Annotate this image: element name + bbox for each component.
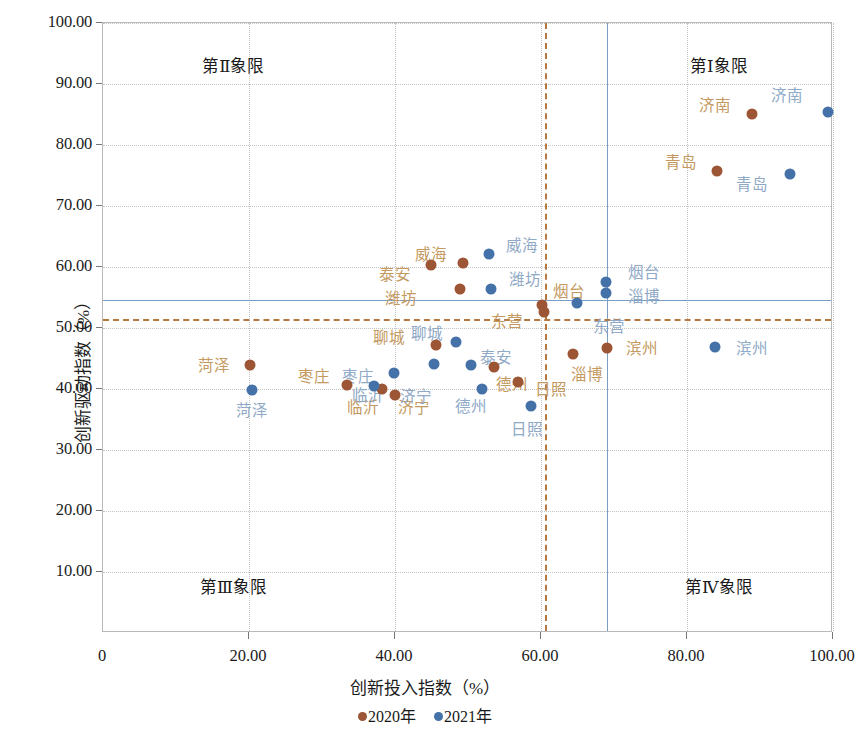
y-axis-tick-mark bbox=[96, 83, 102, 84]
data-point-2021年-滨州[interactable] bbox=[710, 341, 721, 352]
point-label-2020年-济南: 济南 bbox=[699, 93, 731, 115]
y-axis-tick-mark bbox=[96, 266, 102, 267]
data-point-2020年-威海[interactable] bbox=[458, 257, 469, 268]
data-point-2021年-日照[interactable] bbox=[525, 401, 536, 412]
point-label-2021年-滨州: 滨州 bbox=[736, 336, 768, 358]
chart-legend: 2020年2021年 bbox=[0, 703, 850, 727]
data-point-2021年-枣庄[interactable] bbox=[368, 380, 379, 391]
gridline-horizontal bbox=[103, 389, 831, 390]
data-point-2021年-泰安[interactable] bbox=[465, 359, 476, 370]
gridline-vertical bbox=[541, 23, 542, 631]
y-axis-tick-label: 70.00 bbox=[56, 195, 92, 215]
point-label-2021年-德州: 德州 bbox=[455, 394, 487, 416]
gridline-horizontal bbox=[103, 23, 831, 24]
data-point-2020年-菏泽[interactable] bbox=[245, 359, 256, 370]
data-point-2021年-东营[interactable] bbox=[571, 297, 582, 308]
data-point-2021年-菏泽[interactable] bbox=[246, 384, 257, 395]
reference-line-mean-y-2020 bbox=[103, 319, 831, 321]
gridline-horizontal bbox=[103, 145, 831, 146]
legend-label: 2021年 bbox=[444, 708, 492, 725]
gridline-horizontal bbox=[103, 206, 831, 207]
data-point-2021年-淄博[interactable] bbox=[601, 288, 612, 299]
data-point-2021年-济南[interactable] bbox=[822, 106, 833, 117]
gridline-horizontal bbox=[103, 450, 831, 451]
y-axis-tick-label: 80.00 bbox=[56, 134, 92, 154]
point-label-2020年-聊城: 聊城 bbox=[373, 325, 405, 347]
data-point-2020年-泰安[interactable] bbox=[425, 259, 436, 270]
data-point-2020年-聊城[interactable] bbox=[431, 340, 442, 351]
x-axis-tick-mark bbox=[832, 632, 833, 639]
y-axis-tick-mark bbox=[96, 144, 102, 145]
point-label-2021年-淄博: 淄博 bbox=[628, 284, 660, 306]
quadrant-1: 第Ⅰ象限 bbox=[690, 53, 748, 77]
data-point-2020年-济南[interactable] bbox=[746, 108, 757, 119]
gridline-vertical bbox=[249, 23, 250, 631]
x-axis-tick-mark bbox=[540, 632, 541, 639]
quadrant-2: 第Ⅱ象限 bbox=[202, 53, 264, 77]
gridline-horizontal bbox=[103, 572, 831, 573]
point-label-2021年-济宁: 济宁 bbox=[400, 384, 432, 406]
y-axis-tick-mark bbox=[96, 510, 102, 511]
x-axis-tick-label: 80.00 bbox=[667, 646, 704, 666]
data-point-2020年-滨州[interactable] bbox=[602, 343, 613, 354]
legend-2021[interactable]: 2021年 bbox=[434, 703, 492, 727]
x-axis-title: 创新投入指数（%） bbox=[0, 674, 850, 699]
point-label-2020年-日照: 日照 bbox=[535, 377, 567, 399]
y-axis-tick-mark bbox=[96, 205, 102, 206]
legend-marker-icon bbox=[358, 712, 367, 721]
y-axis-tick-label: 90.00 bbox=[56, 73, 92, 93]
data-point-2021年-德州[interactable] bbox=[476, 383, 487, 394]
data-point-2021年-烟台[interactable] bbox=[601, 277, 612, 288]
quadrant-3: 第Ⅲ象限 bbox=[200, 574, 267, 598]
reference-line-mean-x-2020 bbox=[545, 23, 547, 631]
gridline-horizontal bbox=[103, 328, 831, 329]
data-point-2020年-日照[interactable] bbox=[513, 376, 524, 387]
data-point-2021年-临沂[interactable] bbox=[389, 367, 400, 378]
x-axis-tick-mark bbox=[394, 632, 395, 639]
reference-line-mean-y-2021 bbox=[103, 300, 831, 301]
legend-marker-icon bbox=[434, 712, 443, 721]
quadrant-4: 第Ⅳ象限 bbox=[685, 574, 752, 598]
point-label-2020年-菏泽: 菏泽 bbox=[198, 353, 230, 375]
y-axis-tick-mark bbox=[96, 388, 102, 389]
data-point-2020年-德州[interactable] bbox=[489, 361, 500, 372]
data-point-2020年-潍坊[interactable] bbox=[454, 284, 465, 295]
point-label-2021年-烟台: 烟台 bbox=[628, 260, 660, 282]
x-axis-tick-label: 40.00 bbox=[375, 646, 412, 666]
x-axis-tick-mark bbox=[686, 632, 687, 639]
point-label-2021年-潍坊: 潍坊 bbox=[509, 267, 541, 289]
data-point-2020年-济宁[interactable] bbox=[389, 389, 400, 400]
x-axis-tick-label: 20.00 bbox=[229, 646, 266, 666]
data-point-2021年-青岛[interactable] bbox=[785, 168, 796, 179]
data-point-2021年-济宁[interactable] bbox=[429, 358, 440, 369]
gridline-horizontal bbox=[103, 511, 831, 512]
gridline-vertical bbox=[833, 23, 834, 631]
data-point-2020年-枣庄[interactable] bbox=[341, 379, 352, 390]
data-point-2021年-聊城[interactable] bbox=[451, 337, 462, 348]
data-point-2020年-东营[interactable] bbox=[538, 306, 549, 317]
point-label-2020年-枣庄: 枣庄 bbox=[298, 364, 330, 386]
point-label-2021年-济南: 济南 bbox=[771, 83, 803, 105]
point-label-2020年-滨州: 滨州 bbox=[626, 336, 658, 358]
y-axis-tick-mark bbox=[96, 22, 102, 23]
data-point-2021年-威海[interactable] bbox=[483, 248, 494, 259]
point-label-2020年-东营: 东营 bbox=[491, 309, 523, 331]
point-label-2020年-潍坊: 潍坊 bbox=[385, 286, 417, 308]
y-axis-tick-mark bbox=[96, 327, 102, 328]
y-axis-tick-label: 100.00 bbox=[48, 12, 92, 32]
point-label-2021年-东营: 东营 bbox=[593, 314, 625, 336]
gridline-horizontal bbox=[103, 84, 831, 85]
x-axis-tick-label: 0 bbox=[98, 646, 106, 666]
y-axis-title: 创新驱动指数（%） bbox=[69, 292, 94, 442]
data-point-2020年-淄博[interactable] bbox=[567, 349, 578, 360]
data-point-2021年-潍坊[interactable] bbox=[486, 283, 497, 294]
point-label-2020年-青岛: 青岛 bbox=[665, 150, 697, 172]
legend-2020[interactable]: 2020年 bbox=[358, 703, 416, 727]
y-axis-tick-label: 30.00 bbox=[56, 439, 92, 459]
gridline-vertical bbox=[687, 23, 688, 631]
x-axis-tick-mark bbox=[248, 632, 249, 639]
point-label-2020年-淄博: 淄博 bbox=[571, 362, 603, 384]
y-axis-tick-label: 10.00 bbox=[56, 561, 92, 581]
data-point-2020年-青岛[interactable] bbox=[712, 165, 723, 176]
